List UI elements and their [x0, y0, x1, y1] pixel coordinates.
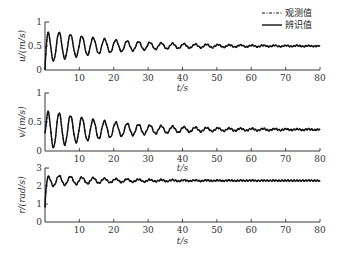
y-tick-label: 0.5 — [28, 117, 43, 127]
x-tick-label: 40 — [177, 225, 189, 235]
y-tick-label: 0 — [36, 217, 42, 227]
x-tick-label: 20 — [108, 225, 120, 235]
x-tick-label: 80 — [314, 225, 326, 235]
x-tick-label: 10 — [74, 225, 86, 235]
y-tick-label: 3 — [36, 163, 42, 173]
x-tick-label: 70 — [280, 225, 292, 235]
x-tick-label: 30 — [142, 154, 154, 164]
x-tick-label: 70 — [280, 154, 292, 164]
y-axis-label: v/(m/s) — [17, 106, 27, 138]
x-tick-label: 50 — [211, 73, 223, 83]
x-tick-label: 40 — [177, 73, 189, 83]
y-tick-label: 0.5 — [28, 41, 43, 51]
x-tick-label: 10 — [74, 154, 86, 164]
x-axis-label: t/s — [177, 83, 189, 93]
chart-panel-3: 10203040506070800123t/sr/(rad/s) — [17, 163, 326, 246]
x-tick-label: 30 — [142, 225, 154, 235]
y-axis-label: r/(rad/s) — [17, 176, 27, 214]
y-tick-label: 1 — [36, 88, 42, 98]
chart-figure: 102030405060708000.51t/su/(m/s)102030405… — [0, 0, 339, 259]
chart-panel-1: 102030405060708000.51t/su/(m/s) — [17, 17, 326, 93]
y-tick-label: 1 — [36, 17, 42, 27]
y-tick-label: 0 — [36, 65, 42, 75]
series-line-identified — [45, 175, 320, 207]
y-tick-label: 0 — [36, 146, 42, 156]
y-axis-label: u/(m/s) — [17, 29, 27, 62]
series-line-identified — [45, 32, 320, 69]
x-tick-label: 20 — [108, 73, 120, 83]
x-tick-label: 60 — [246, 154, 258, 164]
x-tick-label: 50 — [211, 154, 223, 164]
x-tick-label: 50 — [211, 225, 223, 235]
y-tick-label: 1 — [36, 199, 42, 209]
x-tick-label: 10 — [74, 73, 86, 83]
legend: 观测值 辨识值 — [262, 7, 312, 30]
x-tick-label: 80 — [314, 73, 326, 83]
series-line-identified — [45, 111, 320, 147]
x-tick-label: 70 — [280, 73, 292, 83]
y-tick-label: 2 — [36, 181, 42, 191]
x-axis-label: t/s — [177, 236, 189, 246]
x-tick-label: 20 — [108, 154, 120, 164]
x-tick-label: 60 — [246, 225, 258, 235]
legend-label-observed: 观测值 — [285, 7, 312, 18]
chart-panel-2: 102030405060708000.51t/sv/(m/s) — [17, 88, 326, 173]
x-axis-label: t/s — [177, 163, 189, 173]
x-tick-label: 60 — [246, 73, 258, 83]
x-tick-label: 80 — [314, 154, 326, 164]
legend-label-identified: 辨识值 — [285, 19, 312, 30]
x-tick-label: 30 — [142, 73, 154, 83]
